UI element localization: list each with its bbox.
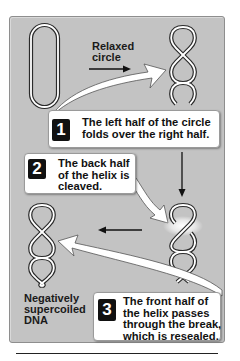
arrow-left-icon [98,227,142,234]
step-1-text: The left half of the circle folds over t… [82,117,211,140]
curved-callout-arrow-icon [58,235,222,296]
relaxed-circle-label: Relaxed circle [92,41,134,63]
supercoil-helix-icon [171,27,194,104]
step-text-line: The front half of [123,296,221,308]
step-text-line: The back half [58,158,130,170]
step-3-badge: 3 [98,299,116,321]
relaxed-circle-icon [31,25,58,107]
arrow-right-icon [89,66,131,73]
step-text-line: The left half of the circle [82,117,211,129]
step-3-text: The front half of the helix passes throu… [123,296,221,342]
step-3-box: 3 The front half of the helix passes thr… [93,292,221,341]
negatively-supercoiled-label: Negatively supercoiled DNA [24,293,86,326]
label-line: DNA [24,315,86,326]
step-text-line: which is resealed. [123,331,221,343]
step-2-text: The back half of the helix is cleaved. [58,158,130,193]
step-text-line: through the break, [123,319,221,331]
step-1-box: 1 The left half of the circle folds over… [48,110,220,148]
step-1-badge: 1 [52,119,70,141]
step-text-line: cleaved. [58,181,130,193]
step-2-box: 2 The back half of the helix is cleaved. [24,153,136,194]
negative-supercoil-icon [30,205,53,286]
bottom-rule-divider [16,353,218,354]
label-line: circle [92,52,134,63]
step-text-line: folds over the right half. [82,129,211,141]
arrow-down-icon [179,152,186,197]
step-2-badge: 2 [28,159,46,179]
